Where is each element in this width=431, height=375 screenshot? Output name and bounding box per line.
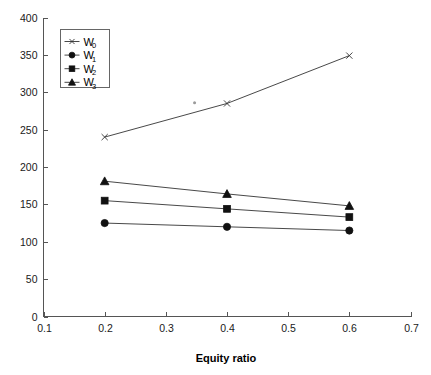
x-tick-label: 0.6 [342,322,357,334]
x-tick-label: 0.5 [281,322,296,334]
chart-figure: 050100150200250300350400 0.10.20.30.40.5… [0,0,431,375]
x-tick-label: 0.4 [220,322,235,334]
data-marker-circle [223,223,230,230]
x-tick-label: 0.7 [404,322,419,334]
x-tick-label: 0.3 [159,322,174,334]
y-tick-label: 50 [26,273,38,285]
data-marker-square [69,66,75,72]
y-tick-label: 300 [20,86,38,98]
x-tick-label: 0.1 [37,322,52,334]
y-tick-label: 400 [20,12,38,24]
data-marker-square [224,205,231,212]
data-marker-circle [69,52,75,58]
y-tick-label: 100 [20,236,38,248]
data-marker-square [101,197,108,204]
chart-annotations [193,101,196,104]
y-tick-label: 150 [20,198,38,210]
x-axis-title: Equity ratio [196,352,257,364]
y-tick-label: 200 [20,161,38,173]
legend[interactable]: W0W1W2W3 [61,30,110,91]
data-marker-square [346,214,353,221]
data-marker-circle [346,227,353,234]
legend-sublabel-W3: 3 [92,82,96,91]
line-chart: 050100150200250300350400 0.10.20.30.40.5… [0,0,431,375]
y-tick-label: 350 [20,49,38,61]
y-tick-label: 250 [20,124,38,136]
x-tick-label: 0.2 [98,322,113,334]
stray-dot [193,101,196,104]
data-marker-circle [101,219,108,226]
